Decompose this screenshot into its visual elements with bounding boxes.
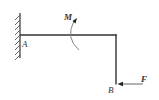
label-b: B xyxy=(108,85,114,95)
label-a: A xyxy=(21,39,28,49)
force-arrow-icon xyxy=(118,82,144,86)
label-f: F xyxy=(140,74,147,84)
frame-diagram: A M B F xyxy=(0,0,159,100)
moment-arrow-icon xyxy=(70,18,79,50)
label-m: M xyxy=(63,12,73,22)
fixed-support xyxy=(15,13,20,60)
